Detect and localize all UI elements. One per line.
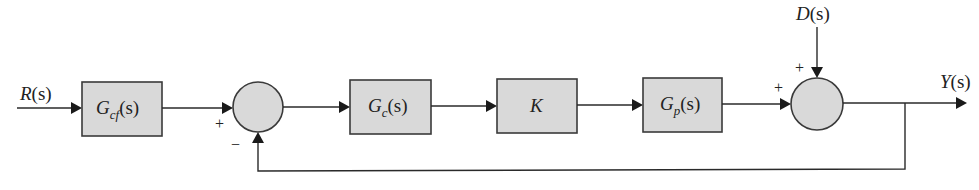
arrow-icon <box>486 100 497 112</box>
block-gcf: Gcf(s) <box>82 82 162 136</box>
block-k-label: K <box>529 95 544 116</box>
block-gc: Gc(s) <box>350 80 431 134</box>
disturbance-label: D(s) <box>795 3 830 25</box>
sum1-plus-sign: + <box>215 115 224 132</box>
input-signal: R(s) <box>17 83 82 114</box>
output-label: Y(s) <box>940 71 971 93</box>
block-diagram: R(s) Gcf(s) + − Gc(s) K Gp(s) D(s) <box>0 0 979 190</box>
arrow-icon <box>632 99 643 111</box>
arrow-icon <box>252 132 264 143</box>
block-k: K <box>497 79 577 133</box>
arrow-icon <box>956 97 967 109</box>
arrow-icon <box>811 67 823 78</box>
arrow-icon <box>339 101 350 113</box>
arrow-icon <box>222 102 233 114</box>
sum2-top-plus-sign: + <box>795 59 804 76</box>
input-label: R(s) <box>19 83 52 105</box>
sum2-left-plus-sign: + <box>774 79 783 96</box>
block-gp: Gp(s) <box>643 78 722 132</box>
arrow-icon <box>780 98 791 110</box>
output-signal: Y(s) <box>843 71 971 109</box>
summing-junction-1: + − <box>215 82 283 153</box>
sum1-minus-sign: − <box>231 136 240 153</box>
summing-junction-2: + + <box>774 59 843 130</box>
arrow-icon <box>71 102 82 114</box>
